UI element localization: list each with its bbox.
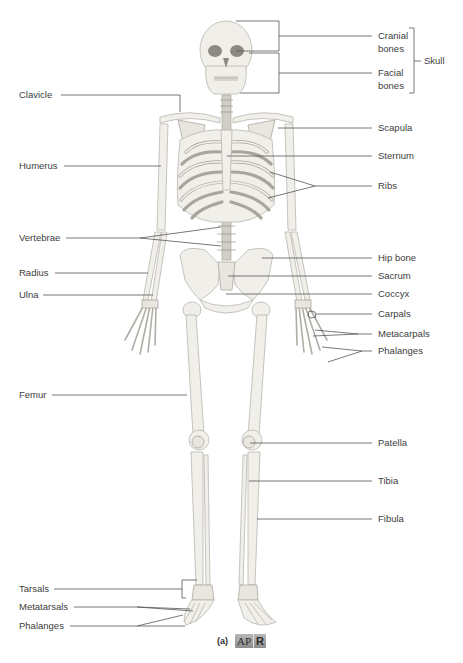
label-phalanges-foot: Phalanges [19,620,64,632]
apr-badge: AP R [235,634,266,648]
label-facial-bones: Facial bones [378,66,404,92]
label-vertebrae: Vertebrae [19,232,60,244]
label-coccyx: Coccyx [378,288,409,300]
label-cranial-line1: Cranial [378,29,408,42]
apr-badge-r: R [253,634,266,648]
label-facial-line1: Facial [378,66,404,79]
label-tibia: Tibia [378,475,398,487]
label-cranial-line2: bones [378,42,408,55]
label-skull: Skull [424,55,445,67]
ribcage-drawing [177,130,274,223]
label-tarsals: Tarsals [19,583,49,595]
label-ribs: Ribs [378,180,397,192]
label-metatarsals: Metatarsals [19,601,68,613]
legs-drawing [183,302,276,625]
label-radius: Radius [19,267,49,279]
label-fibula: Fibula [378,513,404,525]
label-patella: Patella [378,437,407,449]
skeleton-diagram: Clavicle Humerus Vertebrae Radius Ulna F… [0,0,463,663]
label-humerus: Humerus [19,160,58,172]
label-facial-line2: bones [378,79,404,92]
label-scapula: Scapula [378,122,412,134]
label-metacarpals: Metacarpals [378,328,430,340]
label-cranial-bones: Cranial bones [378,29,408,55]
label-carpals: Carpals [378,308,411,320]
label-phalanges-hand: Phalanges [378,345,423,357]
label-ulna: Ulna [19,289,39,301]
label-sternum: Sternum [378,150,414,162]
skull-drawing [200,21,252,94]
label-femur: Femur [19,389,46,401]
label-sacrum: Sacrum [378,270,411,282]
label-clavicle: Clavicle [19,89,52,101]
apr-badge-ap: AP [235,634,253,648]
figure-caption-letter: (a) [217,636,228,646]
label-hip-bone: Hip bone [378,252,416,264]
